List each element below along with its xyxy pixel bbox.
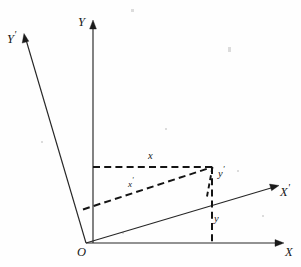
y-prime-axis-label-text: Y [7,32,14,46]
x-component-label: x [148,151,153,162]
x-axis-arrow-icon [275,240,284,247]
x-prime-axis-label: X' [280,183,290,199]
x-prime-component-label: x' [128,177,134,189]
x-prime-component-prime-mark: ' [132,176,134,185]
x-prime-axis-label-text: X [280,185,288,199]
x-prime-component-dashed-line [83,167,213,210]
y-axis-label: Y [78,16,85,29]
x-prime-axis-line [86,187,276,244]
diagram-canvas [0,0,301,267]
y-prime-axis-prime-mark: ' [14,29,16,40]
x-axis-label: X [285,246,293,259]
y-prime-axis-label: Y' [7,30,16,46]
y-prime-component-prime-mark: ' [223,164,225,174]
x-prime-axis-arrow-icon [270,184,280,191]
y-prime-axis-arrow-icon [22,34,29,44]
y-prime-component-label: y' [218,165,225,179]
coordinate-diagram-figure: Y' Y X' X O x x' y y' [0,0,301,267]
y-component-label: y [214,214,219,225]
origin-label: O [77,246,86,259]
y-axis-arrow-icon [90,20,97,29]
x-prime-axis-prime-mark: ' [288,182,290,193]
y-prime-axis-line [26,38,87,243]
